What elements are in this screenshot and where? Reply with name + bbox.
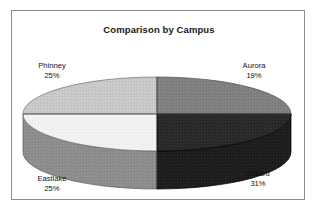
slice-label-phinney: Phinney 25%: [23, 61, 81, 80]
slice-top-phinney: [23, 77, 157, 114]
slice-label-phinney-percent: 25%: [23, 71, 81, 81]
slice-label-aurora-percent: 19%: [225, 71, 283, 81]
slice-label-ballard-percent: 31%: [228, 179, 288, 189]
slice-top-aurora: [157, 77, 291, 114]
slice-label-aurora-name: Aurora: [225, 61, 283, 71]
slice-label-eastlake-percent: 25%: [21, 184, 83, 194]
pie-chart-figure: Comparison by Campus: [0, 0, 318, 214]
chart-frame: Comparison by Campus: [11, 10, 305, 200]
slice-label-ballard: Ballard 31%: [228, 169, 288, 188]
slice-label-eastlake: Eastlake 25%: [21, 174, 83, 193]
slice-label-aurora: Aurora 19%: [225, 61, 283, 80]
slice-label-eastlake-name: Eastlake: [21, 174, 83, 184]
slice-label-ballard-name: Ballard: [228, 169, 288, 179]
slice-label-phinney-name: Phinney: [23, 61, 81, 71]
